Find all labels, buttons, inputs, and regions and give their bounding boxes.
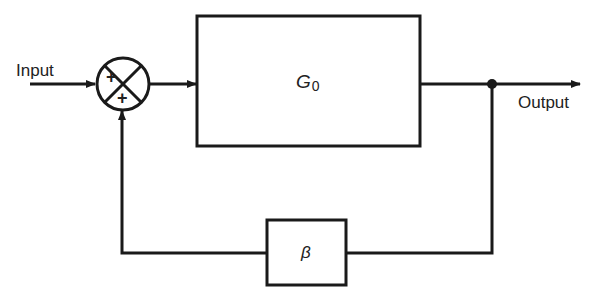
feedback-sign: +: [117, 88, 128, 108]
feedback-block-label: β: [300, 243, 311, 262]
input-label: Input: [16, 61, 54, 80]
input-sign: +: [106, 67, 117, 87]
feedback-line-left: [122, 111, 267, 253]
block-diagram: + + Input Output G0 β: [0, 0, 610, 303]
takeoff-point: [487, 79, 497, 89]
output-label: Output: [518, 93, 569, 112]
forward-block-label: G0: [296, 71, 320, 94]
